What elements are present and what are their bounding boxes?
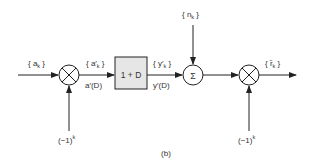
control-label-1: (−1)k [58, 134, 75, 145]
y-prime-d-label: y′(D) [153, 81, 170, 90]
figure-caption: (b) [161, 149, 171, 158]
multiplier-1 [59, 65, 79, 85]
yk-prime-label: { y′k } [153, 59, 171, 69]
block-diagram: { ak } (−1)k { a′k } a′(D) 1 + D { y′k }… [0, 0, 311, 167]
ak-prime-label: { a′k } [86, 59, 105, 69]
a-prime-d-label: a′(D) [85, 81, 102, 90]
block-label: 1 + D [121, 70, 142, 80]
sigma-symbol: Σ [190, 71, 196, 81]
output-label: { r̃k } [265, 59, 281, 69]
noise-label: { nk } [182, 10, 199, 20]
control-label-2: (−1)k [238, 134, 255, 145]
input-label: { ak } [28, 59, 45, 69]
multiplier-2 [239, 65, 259, 85]
